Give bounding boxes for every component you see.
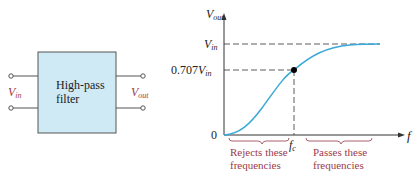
output-terminal-top <box>141 74 145 78</box>
input-voltage-label: Vin <box>8 86 22 100</box>
y-tick-zero: 0 <box>211 129 217 141</box>
x-tick-fc: fc <box>289 139 296 153</box>
output-terminal-bottom <box>141 106 145 110</box>
x-axis-label: f <box>407 129 411 142</box>
y-tick-0707vin: 0.707Vin <box>171 64 212 78</box>
input-terminal-bottom <box>9 106 13 110</box>
block-label-line2: filter <box>56 93 79 105</box>
y-axis-label: Vout <box>206 8 224 22</box>
response-curve <box>224 44 380 135</box>
passes-annotation-line2: frequencies <box>313 160 364 171</box>
output-voltage-label: Vout <box>131 86 149 100</box>
input-terminal-top <box>9 74 13 78</box>
y-tick-vin: Vin <box>204 38 218 52</box>
rejects-brace <box>229 138 289 144</box>
passes-annotation-line1: Passes these <box>313 147 367 158</box>
block-label-line1: High-pass <box>56 79 105 91</box>
rejects-annotation-line1: Rejects these <box>230 147 288 158</box>
rejects-annotation-line2: frequencies <box>230 160 281 171</box>
passes-brace <box>306 138 372 144</box>
cutoff-point <box>291 67 297 73</box>
